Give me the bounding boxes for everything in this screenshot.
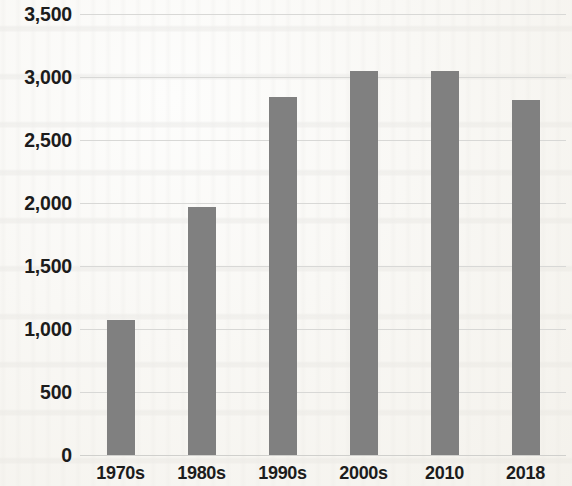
x-axis-tick-label: 1970s: [96, 463, 145, 484]
bar-1980s: [188, 207, 216, 455]
x-axis-tick-label: 1980s: [177, 463, 226, 484]
y-axis-tick-label: 0: [0, 444, 72, 467]
gridline-1500: [80, 266, 566, 267]
plot-area: 3,5003,0002,5002,0001,5001,00050001970s1…: [0, 0, 572, 486]
y-axis-tick-label: 3,000: [0, 66, 72, 89]
y-axis-tick-label: 500: [0, 381, 72, 404]
gridline-0: [80, 455, 566, 456]
gridline-500: [80, 392, 566, 393]
bar-chart: 3,5003,0002,5002,0001,5001,00050001970s1…: [0, 0, 572, 486]
gridline-3000: [80, 77, 566, 78]
x-axis-tick-label: 2000s: [339, 463, 388, 484]
gridline-2000: [80, 203, 566, 204]
gridline-1000: [80, 329, 566, 330]
gridline-2500: [80, 140, 566, 141]
y-axis-tick-label: 2,500: [0, 129, 72, 152]
bar-2018: [512, 100, 540, 455]
x-axis-tick-label: 1990s: [258, 463, 307, 484]
bar-1970s: [107, 320, 135, 455]
x-axis-tick-label: 2018: [506, 463, 545, 484]
y-axis-tick-label: 2,000: [0, 192, 72, 215]
gridline-3500: [80, 14, 566, 15]
bar-2010: [431, 71, 459, 455]
y-axis-tick-label: 1,000: [0, 318, 72, 341]
x-axis-tick-label: 2010: [425, 463, 464, 484]
y-axis-tick-label: 1,500: [0, 255, 72, 278]
bar-2000s: [350, 71, 378, 455]
y-axis-tick-label: 3,500: [0, 3, 72, 26]
bar-1990s: [269, 97, 297, 455]
